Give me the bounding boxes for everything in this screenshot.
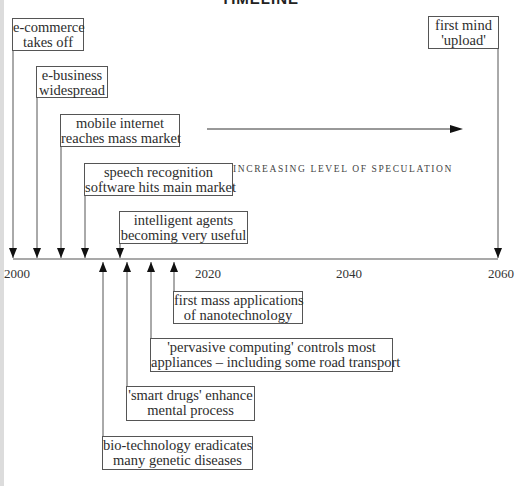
event-box-mind-upload: first mind 'upload' [428,16,499,49]
arrow-right-icon [450,125,463,133]
arrow-up-icon [147,262,155,272]
event-box-intelligent-agents: intelligent agents becoming very useful [119,211,248,244]
arrow-up-icon [99,262,107,272]
arrow-down-icon [9,248,17,258]
event-box-biotechnology: bio-technology eradicates many genetic d… [102,436,253,470]
arrow-down-icon [33,248,41,258]
speculation-label: INCREASING LEVEL OF SPECULATION [233,164,453,174]
event-box-mobile-internet: mobile internet reaches mass market [60,114,180,147]
event-box-ebusiness: e-business widespread [36,66,108,98]
event-box-speech-recognition: speech recognition software hits main ma… [84,163,233,196]
axis-label-2000: 2000 [4,266,30,282]
event-box-nanotechnology: first mass applications of nanotechnolog… [173,291,303,324]
arrow-down-icon [116,248,124,258]
axis-label-2060: 2060 [488,266,514,282]
event-box-smart-drugs: 'smart drugs' enhance mental process [126,386,255,421]
event-box-pervasive-computing: 'pervasive computing' controls most appl… [150,338,393,372]
event-box-ecommerce: e-commerce takes off [12,18,84,51]
axis-label-2020: 2020 [195,266,221,282]
arrow-up-icon [123,262,131,272]
arrow-down-icon [494,248,502,258]
arrow-down-icon [81,248,89,258]
axis-label-2040: 2040 [336,266,362,282]
arrow-up-icon [170,262,178,272]
arrow-down-icon [57,248,65,258]
